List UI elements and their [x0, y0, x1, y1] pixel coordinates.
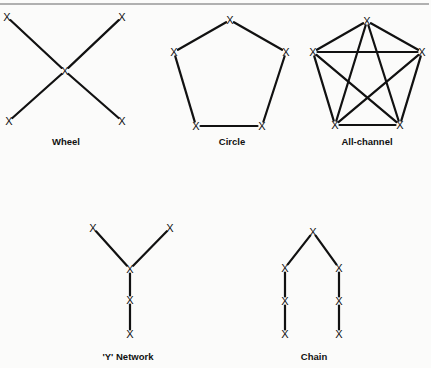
chain-node: X: [309, 226, 317, 238]
all-channel-node: X: [331, 119, 339, 131]
wheel-node: X: [5, 115, 13, 127]
circle-edge: [178, 22, 226, 50]
y-network-edge: [133, 231, 167, 266]
all-channel-edge: [338, 55, 418, 122]
circle-label: Circle: [219, 136, 245, 147]
chain-node: X: [281, 328, 289, 340]
chain-edge: [288, 236, 310, 265]
all-channel-node: X: [396, 119, 404, 131]
circle-node: X: [226, 14, 234, 26]
all-channel-edge: [336, 25, 365, 120]
all-channel-node: X: [418, 46, 426, 58]
circle-edge: [263, 56, 284, 121]
circle-node: X: [258, 120, 266, 132]
y-network-label: 'Y' Network: [103, 351, 155, 362]
edges-layer: [10, 20, 420, 329]
wheel-node: X: [118, 11, 126, 23]
network-diagram: XXXXXXXXXXXXXXXXXXXXXXXXXXX WheelCircleA…: [0, 0, 431, 368]
y-network-node: X: [126, 328, 134, 340]
all-channel-label: All-channel: [341, 136, 392, 147]
all-channel-node: X: [363, 15, 371, 27]
y-network-edge: [96, 231, 127, 265]
wheel-edge: [12, 74, 61, 118]
wheel-node: X: [61, 65, 69, 77]
chain-node: X: [335, 328, 343, 340]
circle-node: X: [170, 46, 178, 58]
circle-edge: [234, 22, 282, 50]
chain-label: Chain: [301, 351, 328, 362]
y-network-node: X: [89, 222, 97, 234]
wheel-edge: [10, 20, 61, 68]
all-channel-node: X: [309, 46, 317, 58]
chain-node: X: [281, 295, 289, 307]
all-channel-edge: [371, 23, 418, 50]
chain-node: X: [281, 262, 289, 274]
all-channel-edge: [368, 25, 398, 120]
nodes-layer: XXXXXXXXXXXXXXXXXXXXXXXXXXX: [3, 11, 426, 340]
circle-node: X: [282, 46, 290, 58]
circle-node: X: [192, 120, 200, 132]
wheel-label: Wheel: [52, 136, 80, 147]
y-network-node: X: [166, 222, 174, 234]
wheel-edge: [68, 74, 118, 118]
wheel-node: X: [3, 11, 11, 23]
y-network-node: X: [126, 294, 134, 306]
wheel-edge: [68, 20, 118, 68]
all-channel-edge: [317, 23, 363, 50]
wheel-node: X: [118, 115, 126, 127]
y-network-node: X: [126, 263, 134, 275]
chain-node: X: [335, 295, 343, 307]
all-channel-edge: [316, 55, 396, 122]
chain-edge: [316, 236, 337, 265]
circle-edge: [175, 56, 194, 121]
chain-node: X: [335, 262, 343, 274]
